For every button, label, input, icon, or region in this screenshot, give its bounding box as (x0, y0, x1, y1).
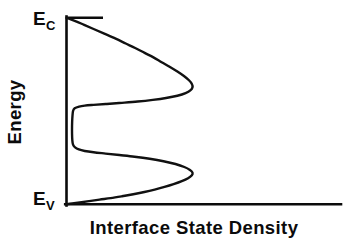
e-v-label-subscript: V (46, 198, 55, 213)
interface-state-density-figure: E C E V Energy Interface State Density (0, 0, 344, 243)
chart-canvas: E C E V Energy Interface State Density (0, 0, 344, 243)
e-v-tick-label: E V (33, 188, 55, 213)
axes-group (65, 17, 341, 206)
e-c-label-base: E (33, 8, 45, 29)
e-c-label-subscript: C (46, 18, 56, 33)
e-v-label-base: E (33, 188, 45, 209)
density-of-states-curve-group (67, 18, 193, 205)
x-axis-title: Interface State Density (90, 217, 299, 238)
density-of-states-curve (67, 18, 193, 205)
y-axis-title: Energy (4, 79, 25, 144)
e-c-tick-label: E C (33, 8, 56, 33)
